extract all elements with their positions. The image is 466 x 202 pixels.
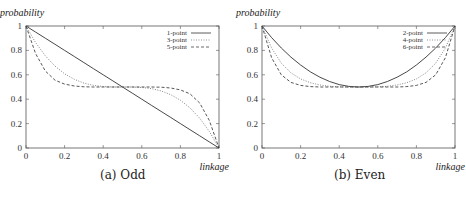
y-tick-label: 1 (18, 21, 23, 31)
caption-even: (b) Even (334, 168, 385, 182)
y-tick-label: 0.8 (11, 45, 23, 55)
series-2-point (262, 26, 455, 87)
x-tick-label: 0.4 (98, 151, 110, 161)
y-tick-label: 0 (18, 143, 23, 153)
x-tick-label: 0.6 (136, 151, 148, 161)
x-tick-label: 0.4 (334, 151, 346, 161)
y-tick-label: 0.8 (247, 45, 259, 55)
x-tick-label: 0 (24, 151, 29, 161)
x-tick-label: 0 (260, 151, 265, 161)
y-tick-label: 0.4 (247, 94, 259, 104)
x-tick-label: 0.2 (59, 151, 70, 161)
y-tick-label: 1 (254, 21, 259, 31)
x-tick-label: 1 (217, 151, 222, 161)
x-tick-label: 0.2 (295, 151, 306, 161)
y-axis-label: probability (235, 7, 281, 18)
x-tick-label: 0.8 (411, 151, 423, 161)
y-axis-label: probability (0, 7, 45, 18)
x-tick-label: 1 (453, 151, 458, 161)
y-tick-label: 0.2 (247, 119, 258, 129)
x-axis-label: linkage (200, 161, 230, 172)
y-tick-label: 0.6 (11, 70, 23, 80)
plot-even: 00.20.40.60.8100.20.40.60.81probabilityl… (235, 7, 466, 172)
y-tick-label: 0.4 (11, 94, 23, 104)
legend-label: 5-point (167, 43, 187, 51)
y-tick-label: 0.2 (11, 119, 22, 129)
caption-odd: (a) Odd (100, 168, 146, 182)
legend-label: 6-point (403, 43, 423, 51)
x-axis-label: linkage (436, 161, 466, 172)
y-tick-label: 0 (254, 143, 259, 153)
y-tick-label: 0.6 (247, 70, 259, 80)
plot-odd: 00.20.40.60.8100.20.40.60.81probabilityl… (0, 7, 230, 172)
x-tick-label: 0.6 (372, 151, 384, 161)
x-tick-label: 0.8 (175, 151, 187, 161)
figure: 00.20.40.60.8100.20.40.60.81probabilityl… (0, 0, 466, 202)
